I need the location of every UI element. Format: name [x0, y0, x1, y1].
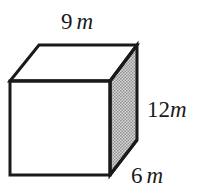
height-value: 12: [147, 97, 170, 122]
width-value: 9: [61, 9, 73, 34]
depth-unit: m: [147, 163, 164, 188]
height-dimension-label: 12m: [147, 98, 187, 121]
depth-dimension-label: 6m: [131, 164, 163, 187]
prism-front-face: [10, 81, 110, 175]
figure-container: 9m 12m 6m: [0, 0, 199, 196]
depth-value: 6: [131, 163, 143, 188]
width-unit: m: [77, 9, 94, 34]
width-dimension-label: 9m: [61, 10, 93, 33]
height-unit: m: [170, 97, 187, 122]
